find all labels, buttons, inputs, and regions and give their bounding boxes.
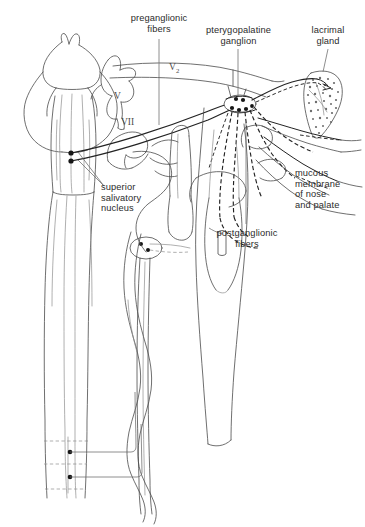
medulla-outline	[51, 94, 96, 195]
label-lacrimal-gland-line2: gland	[298, 36, 358, 47]
lower-ganglion-group	[130, 237, 190, 514]
nasal-palate-outlines	[190, 125, 286, 207]
label-mucous-membrane: mucous membrane of nose and palate	[295, 168, 365, 210]
brainstem-outline	[24, 33, 117, 152]
spinal-segment-neurons	[68, 392, 142, 479]
postganglionic-to-lacrimal	[252, 79, 331, 102]
label-mucous-membrane-line2: membrane	[295, 179, 365, 190]
label-postganglionic-fibers-line1: postganglionic	[217, 228, 278, 238]
label-pterygopalatine-ganglion-line2: ganglion	[190, 36, 287, 47]
label-ssn-line2: salivatory	[101, 193, 175, 204]
nerve-tag-maxillary-v2: V2	[169, 62, 179, 74]
label-lacrimal-gland: lacrimal gland	[298, 25, 358, 46]
anatomy-diagram: .ln { fill:none; stroke:#4a4a4a; stroke-…	[0, 0, 365, 527]
label-superior-salivatory-nucleus: superior salivatory nucleus	[101, 182, 175, 214]
label-pterygopalatine-ganglion-line1: pterygopalatine	[206, 25, 271, 35]
maxilla-pterygoid-column	[196, 108, 248, 446]
label-mucous-membrane-line3: of nose	[295, 189, 365, 200]
label-ssn-line3: nucleus	[101, 203, 175, 214]
label-postganglionic-fibers-line2: fibers	[203, 239, 291, 250]
label-ssn-line1: superior	[101, 182, 135, 192]
anatomy-line-art: .ln { fill:none; stroke:#4a4a4a; stroke-…	[0, 0, 365, 527]
label-lacrimal-gland-line1: lacrimal	[312, 25, 345, 35]
label-mucous-membrane-line4: and palate	[295, 200, 365, 211]
label-preganglionic-fibers-line1: preganglionic	[131, 13, 188, 23]
label-postganglionic-fibers: postganglionic fibers	[203, 228, 291, 249]
nerve-tag-maxillary-root: V	[169, 62, 176, 72]
nerve-tag-maxillary-sub: 2	[176, 67, 179, 74]
label-pterygopalatine-ganglion: pterygopalatine ganglion	[190, 25, 287, 46]
nerve-tag-facial: VII	[121, 117, 134, 127]
label-mucous-membrane-line1: mucous	[295, 168, 328, 178]
leader-lacrimal	[323, 49, 328, 72]
nerve-tag-trigeminal: V	[114, 91, 121, 101]
maxillary-nerve-V2	[110, 63, 284, 101]
pterygopalatine-ganglion	[224, 95, 256, 113]
